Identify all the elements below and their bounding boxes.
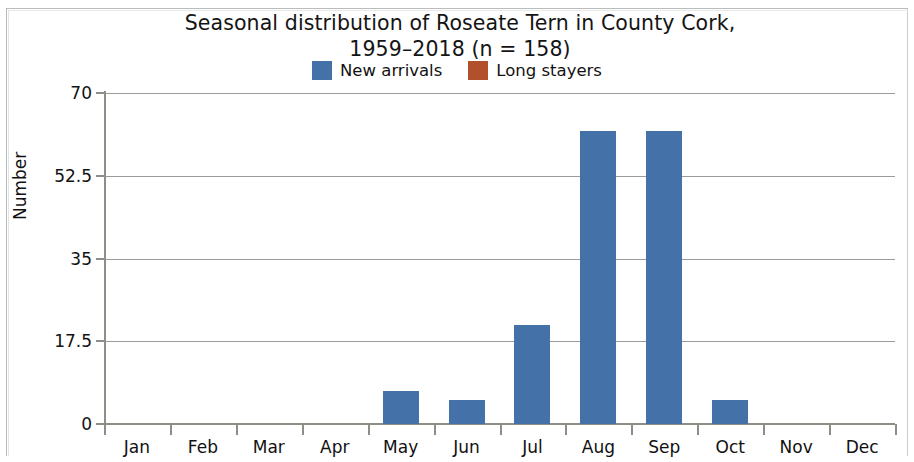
- bar-group-aug: [565, 93, 631, 424]
- x-axis-label-jul: Jul: [500, 437, 566, 461]
- legend-swatch-icon-new-arrivals: [312, 61, 332, 80]
- legend-swatch-icon-long-stayers: [468, 61, 488, 80]
- bar-group-jul: [500, 93, 566, 424]
- x-axis-label-dec: Dec: [829, 437, 895, 461]
- x-axis-tick-6: [500, 424, 502, 435]
- x-axis-tick-9: [697, 424, 699, 435]
- x-axis-label-sep: Sep: [631, 437, 697, 461]
- x-axis-label-feb: Feb: [170, 437, 236, 461]
- bar-group-mar: [236, 93, 302, 424]
- bar-layer: [104, 93, 895, 424]
- plot-area: 017.53552.570: [104, 93, 895, 424]
- bar-group-dec: [829, 93, 895, 424]
- bar-jul-new-arrivals[interactable]: [514, 325, 550, 424]
- x-axis-tick-1: [170, 424, 172, 435]
- x-axis-label-aug: Aug: [565, 437, 631, 461]
- y-axis-label-70: 70: [70, 83, 92, 103]
- x-axis-label-oct: Oct: [697, 437, 763, 461]
- bar-group-jan: [104, 93, 170, 424]
- bar-aug-new-arrivals[interactable]: [580, 131, 616, 424]
- x-axis-tick-2: [236, 424, 238, 435]
- x-axis-tick-0: [104, 424, 106, 435]
- bar-may-new-arrivals[interactable]: [383, 391, 419, 424]
- x-axis-tick-3: [302, 424, 304, 435]
- bar-group-sep: [631, 93, 697, 424]
- bar-group-may: [368, 93, 434, 424]
- x-axis-label-jun: Jun: [434, 437, 500, 461]
- bar-group-feb: [170, 93, 236, 424]
- y-axis-label-0: 0: [81, 414, 92, 434]
- x-axis-label-nov: Nov: [763, 437, 829, 461]
- bar-jun-new-arrivals[interactable]: [449, 400, 485, 424]
- x-axis-tick-10: [763, 424, 765, 435]
- bar-sep-new-arrivals[interactable]: [646, 131, 682, 424]
- x-axis-tick-11: [829, 424, 831, 435]
- legend-label-new-arrivals: New arrivals: [340, 61, 442, 80]
- x-axis-label-may: May: [368, 437, 434, 461]
- y-axis-label-52.5: 52.5: [54, 166, 92, 186]
- bar-group-apr: [302, 93, 368, 424]
- x-axis-label-jan: Jan: [104, 437, 170, 461]
- legend-label-long-stayers: Long stayers: [496, 61, 602, 80]
- bar-group-oct: [697, 93, 763, 424]
- legend-item-long-stayers[interactable]: Long stayers: [468, 61, 602, 80]
- x-axis-label-mar: Mar: [236, 437, 302, 461]
- x-axis-tick-12: [895, 424, 897, 435]
- y-axis-title: Number: [10, 192, 30, 220]
- x-axis-tick-4: [368, 424, 370, 435]
- x-axis-tick-8: [631, 424, 633, 435]
- legend-item-new-arrivals[interactable]: New arrivals: [312, 61, 442, 80]
- x-axis-tick-7: [565, 424, 567, 435]
- x-axis-label-layer: JanFebMarAprMayJunJulAugSepOctNovDec: [104, 437, 895, 461]
- bar-group-nov: [763, 93, 829, 424]
- bar-oct-new-arrivals[interactable]: [712, 400, 748, 424]
- bar-group-jun: [434, 93, 500, 424]
- x-axis-tick-5: [434, 424, 436, 435]
- chart-legend: New arrivals Long stayers: [0, 61, 914, 80]
- y-axis-label-17.5: 17.5: [54, 331, 92, 351]
- chart-page: Seasonal distribution of Roseate Tern in…: [0, 0, 914, 462]
- y-axis-label-35: 35: [70, 249, 92, 269]
- x-axis-label-apr: Apr: [302, 437, 368, 461]
- chart-title: Seasonal distribution of Roseate Tern in…: [60, 10, 860, 62]
